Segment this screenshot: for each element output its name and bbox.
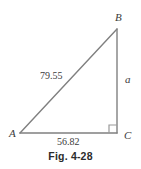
side-label-base: 56.82 bbox=[57, 137, 80, 147]
figure-caption: Fig. 4-28 bbox=[0, 151, 141, 162]
figure-container: B A C a 79.55 56.82 Fig. 4-28 bbox=[0, 0, 141, 169]
vertex-label-b: B bbox=[115, 12, 122, 23]
side-label-vertical: a bbox=[125, 74, 131, 85]
vertex-label-a: A bbox=[9, 128, 16, 139]
right-angle-marker-icon bbox=[109, 125, 117, 133]
side-label-hypotenuse: 79.55 bbox=[40, 71, 63, 81]
side-hypotenuse-line bbox=[20, 29, 117, 133]
vertex-label-c: C bbox=[124, 130, 131, 141]
